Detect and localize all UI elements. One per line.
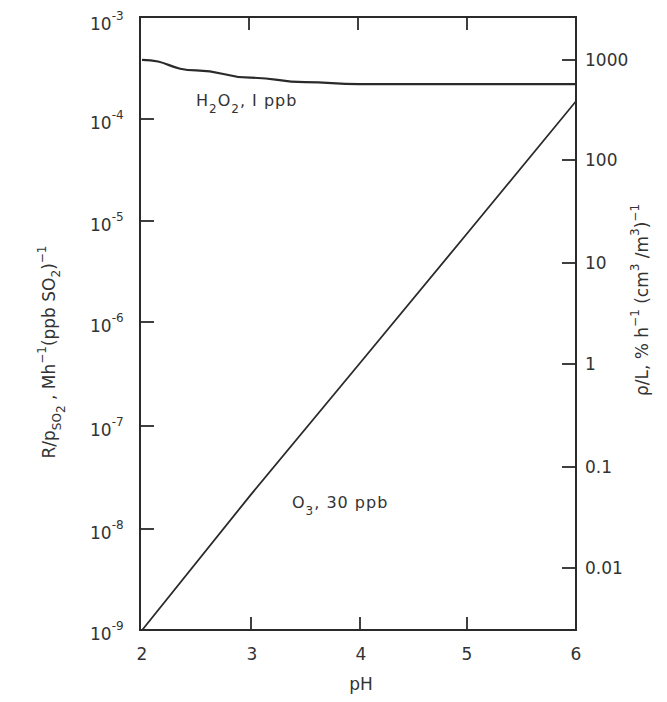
left-tick-label: 10-8 (90, 518, 124, 543)
left-tick-label: 10-7 (90, 415, 124, 440)
series-line-h2o2 (142, 60, 576, 84)
right-tick-label: 1 (585, 354, 596, 374)
x-tick-label: 4 (356, 644, 367, 664)
x-tick-label: 5 (462, 644, 473, 664)
right-axis-ticks (562, 60, 576, 568)
annotation-o3: O3, 30 ppb (292, 493, 388, 518)
x-axis-ticks (251, 617, 467, 630)
right-tick-label: 0.01 (585, 558, 623, 578)
x-tick-label: 6 (571, 644, 582, 664)
left-tick-label: 10-9 (90, 619, 124, 644)
x-tick-label: 2 (137, 644, 148, 664)
left-tick-label: 10-4 (90, 108, 124, 133)
right-tick-label: 100 (585, 150, 617, 170)
left-axis-title: R/pSO2 , Mh−1(ppb SO2)−1 (35, 246, 68, 459)
left-axis-ticks (140, 119, 154, 529)
left-tick-label: 10-3 (90, 9, 124, 34)
plot-area (142, 60, 576, 630)
left-tick-labels: 10-3 10-4 10-5 10-6 10-7 10-8 10-9 (90, 9, 124, 644)
right-tick-label: 0.1 (585, 457, 612, 477)
left-tick-label: 10-5 (90, 210, 124, 235)
series-line-o3 (142, 101, 576, 630)
svg-text:R/pSO2 , Mh−1(ppb SO2)−1: R/pSO2 , Mh−1(ppb SO2)−1 (35, 246, 68, 459)
x-tick-label: 3 (247, 644, 258, 664)
right-tick-label: 1000 (585, 50, 628, 70)
left-tick-label: 10-6 (90, 311, 124, 336)
right-tick-labels: 1000 100 10 1 0.1 0.01 (585, 50, 628, 578)
chart: 2 3 4 5 6 pH 10-3 10-4 10-5 10-6 10-7 10… (0, 0, 667, 702)
right-tick-label: 10 (585, 253, 607, 273)
x-tick-labels: 2 3 4 5 6 (137, 644, 582, 664)
top-axis-ticks (249, 17, 467, 30)
svg-text:ρ/L, % h−1 (cm3 /m3)−1: ρ/L, % h−1 (cm3 /m3)−1 (628, 204, 652, 396)
right-axis-title: ρ/L, % h−1 (cm3 /m3)−1 (628, 204, 652, 396)
x-axis-title: pH (349, 674, 373, 694)
annotation-h2o2: H2O2, I ppb (196, 91, 297, 116)
